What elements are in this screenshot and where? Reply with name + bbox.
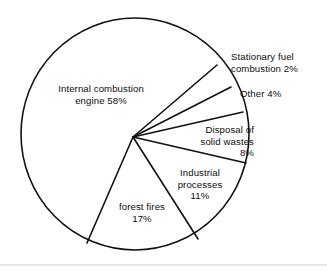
- slice-label-other: Other 4%: [240, 88, 320, 100]
- slice-label-industrial-processes: Industrial processes 11%: [164, 167, 236, 202]
- slice-label-line: combustion 2%: [231, 63, 325, 75]
- pie-chart: Internal combustion engine 58% Stationar…: [0, 0, 327, 272]
- slice-label-internal-combustion-engine: Internal combustion engine 58%: [40, 83, 162, 106]
- slice-label-line: Other 4%: [240, 88, 320, 100]
- pie-chart-graphic: [0, 0, 327, 272]
- slice-label-forest-fires: forest fires 17%: [104, 201, 180, 224]
- slice-label-line: 17%: [104, 213, 180, 225]
- slice-label-line: engine 58%: [40, 95, 162, 107]
- slice-label-line: Internal combustion: [40, 83, 162, 95]
- slice-label-line: Disposal of: [172, 124, 254, 136]
- slice-label-line: processes: [164, 179, 236, 191]
- slice-label-line: 8%: [172, 147, 254, 159]
- slice-label-stationary-fuel-combustion: Stationary fuel combustion 2%: [231, 51, 325, 74]
- slice-label-line: Stationary fuel: [231, 51, 325, 63]
- slice-label-disposal-of-solid-wastes: Disposal of solid wastes 8%: [172, 124, 254, 159]
- slice-label-line: forest fires: [104, 201, 180, 213]
- slice-label-line: solid wastes: [172, 136, 254, 148]
- slice-label-line: Industrial: [164, 167, 236, 179]
